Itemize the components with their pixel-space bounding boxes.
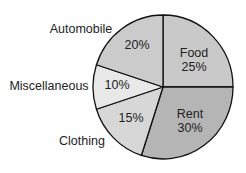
- slice-value-clothing: 15%: [118, 111, 143, 125]
- slice-label-rent: Rent: [177, 107, 204, 121]
- slice-value-misc: 10%: [104, 78, 129, 92]
- slice-value-rent: 30%: [177, 121, 202, 135]
- slice-value-automobile: 20%: [124, 38, 149, 52]
- slice-value-food: 25%: [181, 60, 206, 74]
- slice-label-clothing: Clothing: [59, 134, 105, 148]
- slice-label-automobile: Automobile: [50, 22, 113, 36]
- slice-label-food: Food: [180, 46, 209, 60]
- pie-chart: Food 25% Rent 30% 15% Clothing 10% Misce…: [0, 0, 246, 173]
- slice-label-misc: Miscellaneous: [9, 79, 88, 93]
